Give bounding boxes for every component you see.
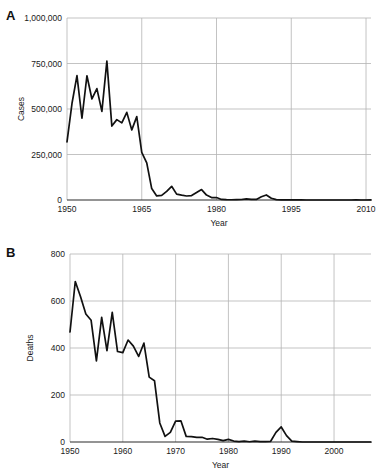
x-axis-title: Year — [210, 218, 227, 228]
x-tick-label: 1960 — [113, 446, 132, 456]
x-axis-title: Year — [212, 460, 229, 470]
y-axis-title: Cases — [16, 97, 26, 121]
x-tick-label: 1970 — [166, 446, 185, 456]
x-tick-label: 2000 — [325, 446, 344, 456]
x-tick-label: 1980 — [219, 446, 238, 456]
x-tick-label: 1950 — [58, 204, 77, 214]
x-tick-label: 2010 — [357, 204, 376, 214]
y-tick-label: 400 — [51, 343, 65, 353]
y-tick-label: 600 — [51, 296, 65, 306]
y-tick-label: 1,000,000 — [24, 13, 62, 23]
y-axis-title: Deaths — [25, 335, 35, 362]
x-tick-label: 1965 — [132, 204, 151, 214]
x-tick-label: 1990 — [272, 446, 291, 456]
y-tick-label: 800 — [51, 249, 65, 259]
y-tick-label: 250,000 — [31, 150, 62, 160]
x-tick-label: 1980 — [207, 204, 226, 214]
x-tick-label: 1995 — [282, 204, 301, 214]
measles-incidence-figure: A 0250,000500,000750,0001,000,0001950196… — [0, 0, 380, 472]
panel-b-deaths: B 0200400600800195019601970198019902000Y… — [0, 236, 380, 472]
x-tick-label: 1950 — [61, 446, 80, 456]
data-series-line — [70, 282, 371, 443]
panel-a-chart: 0250,000500,000750,0001,000,000195019651… — [0, 0, 380, 236]
y-tick-label: 750,000 — [31, 59, 62, 69]
panel-b-chart: 0200400600800195019601970198019902000Yea… — [0, 236, 380, 472]
panel-a-cases: A 0250,000500,000750,0001,000,0001950196… — [0, 0, 380, 236]
data-series-line — [67, 61, 371, 200]
y-tick-label: 200 — [51, 390, 65, 400]
y-tick-label: 500,000 — [31, 104, 62, 114]
